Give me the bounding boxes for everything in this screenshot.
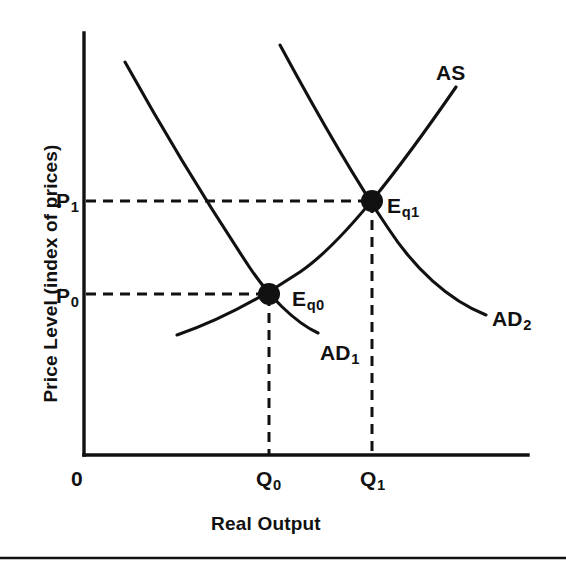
equilibrium-label-eq1: Eq1: [387, 195, 419, 216]
equilibrium-point-eq1: [361, 190, 383, 212]
x-tick-label-q1-subscript: 1: [377, 477, 386, 493]
curve-label-as-text: AS: [436, 61, 466, 84]
x-tick-label-q1: Q1: [360, 468, 385, 489]
equilibrium-label-eq0: Eq0: [292, 288, 324, 309]
ad-as-chart-canvas: [0, 0, 566, 568]
curve-label-ad1-subscript: 1: [351, 351, 360, 367]
curve-label-ad2: AD2: [492, 308, 532, 329]
curve-ad2: [280, 45, 486, 315]
x-tick-label-q0: Q0: [256, 468, 281, 489]
equilibrium-label-eq1-base: E: [387, 194, 401, 217]
y-tick-label-p0-subscript: 0: [70, 294, 79, 310]
x-tick-label-q0-base: Q: [256, 467, 273, 490]
curve-ad1: [125, 62, 318, 333]
curve-label-ad1: AD1: [320, 342, 360, 363]
curve-label-as: AS: [436, 62, 466, 83]
curve-label-ad2-base: AD: [492, 307, 523, 330]
x-tick-label-q1-base: Q: [360, 467, 377, 490]
curve-label-ad1-base: AD: [320, 341, 351, 364]
equilibrium-label-eq0-subscript: q0: [306, 297, 324, 313]
curve-label-ad2-subscript: 2: [523, 317, 532, 333]
x-axis-caption: Real Output: [211, 514, 321, 533]
equilibrium-label-eq0-base: E: [292, 287, 306, 310]
y-tick-label-p1-subscript: 1: [70, 199, 79, 215]
y-axis-caption: Price Level (index of prices): [41, 124, 60, 424]
equilibrium-label-eq1-subscript: q1: [401, 204, 419, 220]
x-tick-label-q0-subscript: 0: [273, 477, 282, 493]
equilibrium-point-eq0: [258, 283, 280, 305]
origin-label: 0: [71, 468, 83, 489]
ad-as-figure: AS AD1 AD2 Eq0 Eq1 P1 P0 Q0 Q1 0 Real Ou…: [0, 0, 566, 568]
